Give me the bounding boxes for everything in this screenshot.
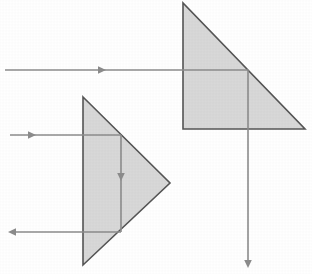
diagram-background: [0, 0, 312, 274]
ray-diagram-svg: [0, 0, 312, 274]
ray-diagram-canvas: [0, 0, 312, 274]
